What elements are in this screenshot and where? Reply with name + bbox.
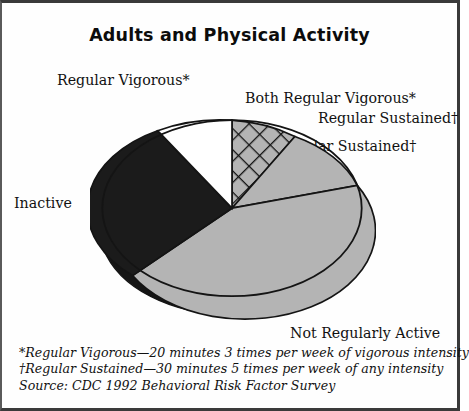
pie-chart: [90, 91, 376, 339]
footnote-regular-vigorous: *Regular Vigorous—20 minutes 3 times per…: [19, 345, 469, 361]
figure-inner: Adults and Physical Activity Regular Vig…: [2, 3, 457, 408]
chart-title: Adults and Physical Activity: [2, 25, 457, 45]
footnote-regular-sustained: †Regular Sustained—30 minutes 5 times pe…: [19, 361, 469, 377]
footnotes: *Regular Vigorous—20 minutes 3 times per…: [19, 345, 469, 394]
footnote-source: Source: CDC 1992 Behavioral Risk Factor …: [19, 378, 469, 394]
slice-label-inactive: Inactive: [14, 196, 72, 212]
pie-slices: [90, 120, 375, 319]
slice-label-regular-vigorous: Regular Vigorous*: [57, 73, 190, 89]
